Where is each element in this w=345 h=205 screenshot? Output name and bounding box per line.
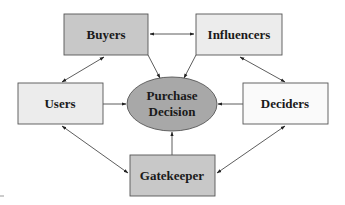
node-purchase-decision: Purchase Decision — [127, 77, 217, 131]
edge-deciders-gatekeeper — [217, 126, 285, 173]
edge-influencers-deciders — [240, 57, 285, 82]
node-buyers: Buyers — [64, 14, 148, 55]
edge-users-gatekeeper — [62, 126, 128, 173]
node-users-label: Users — [44, 96, 75, 111]
purchase-decision-label-line2: Decision — [149, 104, 197, 119]
node-users: Users — [18, 83, 103, 124]
node-gatekeeper-label: Gatekeeper — [140, 168, 204, 183]
edge-influencers-to-decision — [184, 55, 196, 78]
edge-buyers-users — [62, 57, 104, 82]
node-buyers-label: Buyers — [87, 27, 126, 42]
node-deciders-label: Deciders — [261, 96, 309, 111]
edge-buyers-to-decision — [148, 55, 160, 78]
node-gatekeeper: Gatekeeper — [130, 155, 215, 196]
node-influencers-label: Influencers — [208, 27, 271, 42]
purchase-decision-label-line1: Purchase — [146, 88, 197, 103]
node-deciders: Deciders — [243, 83, 328, 124]
buying-center-diagram: Buyers Influencers Users Deciders Gateke… — [0, 0, 345, 205]
node-influencers: Influencers — [196, 14, 282, 55]
